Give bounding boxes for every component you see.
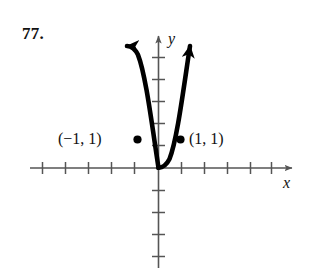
y-axis-label: y: [166, 30, 176, 48]
parabola-right-branch: [159, 46, 191, 168]
point-label-left: (−1, 1): [58, 130, 102, 148]
graph-canvas: (−1, 1) (1, 1) y x: [0, 0, 312, 278]
figure-page: 77.: [0, 0, 312, 278]
point-marker-right: [176, 135, 184, 143]
x-axis-label: x: [282, 174, 290, 191]
point-marker-left: [133, 135, 141, 143]
point-label-right: (1, 1): [189, 130, 224, 148]
parabola-left-branch: [127, 46, 159, 168]
